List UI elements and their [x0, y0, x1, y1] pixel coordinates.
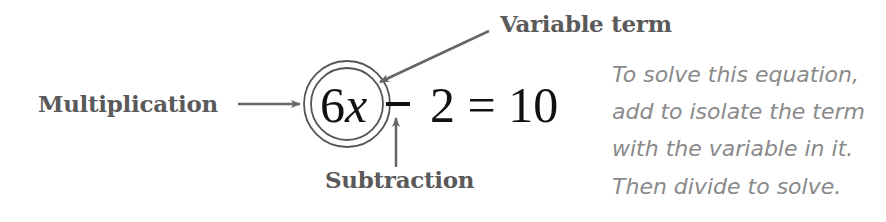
minus-sign — [386, 102, 410, 106]
subtraction-label: Subtraction — [325, 166, 474, 193]
variable-term: 6x — [320, 80, 367, 130]
variable: x — [345, 77, 367, 133]
note-line: with the variable in it. — [612, 138, 853, 160]
variable-term-label: Variable term — [500, 10, 672, 37]
note-line: To solve this equation, — [612, 64, 859, 86]
multiplication-label: Multiplication — [38, 90, 218, 117]
note-line: Then divide to solve. — [612, 176, 841, 198]
equation-rest: 2 = 10 — [430, 80, 558, 130]
coefficient: 6 — [320, 77, 345, 133]
variable-term-arrow-icon — [380, 31, 489, 82]
note-line: add to isolate the term — [612, 101, 865, 123]
